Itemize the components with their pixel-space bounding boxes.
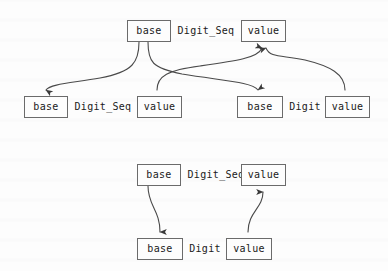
edge-label-digit-lower-r2-c2: Digit xyxy=(187,238,223,260)
diagram-canvas: baseDigit_SeqvaluebaseDigit_Seqvaluebase… xyxy=(0,0,388,271)
edge-label-digit-seq-lower-r1-c2: Digit_Seq xyxy=(185,164,247,186)
node-base-upper-r1-c1: base xyxy=(127,20,171,42)
edge-arrow-u-e1 xyxy=(46,42,139,90)
edge-arrow-l-e2 xyxy=(248,192,263,232)
node-value-lower-r1-c3: value xyxy=(241,164,286,186)
node-base-lower-r2-c1: base xyxy=(137,238,183,260)
node-value-upper-r2-c6: value xyxy=(325,96,370,118)
node-value-upper-r2-c3: value xyxy=(137,96,182,118)
edge-label-digit-seq-upper-r2-c2: Digit_Seq xyxy=(72,96,134,118)
node-base-upper-r2-c1: base xyxy=(24,96,68,118)
node-base-upper-r2-c4: base xyxy=(237,96,283,118)
node-base-lower-r1-c1: base xyxy=(137,164,181,186)
edge-label-digit-upper-r2-c5: Digit xyxy=(287,96,323,118)
edge-label-digit-seq-upper-r1-c2: Digit_Seq xyxy=(175,20,237,42)
edge-arrow-l-e1 xyxy=(148,186,160,232)
edge-arrow-u-e4 xyxy=(266,48,345,90)
node-value-upper-r1-c3: value xyxy=(241,20,286,42)
node-value-lower-r2-c3: value xyxy=(226,238,272,260)
